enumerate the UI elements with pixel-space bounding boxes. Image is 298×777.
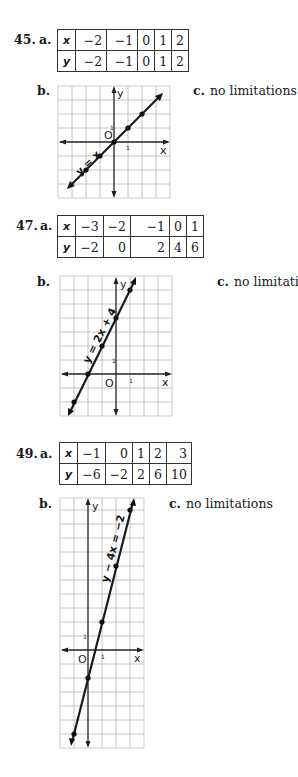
x-axis-label: x [134,652,141,665]
data-point [85,675,90,680]
y-axis-label: y [92,500,99,513]
tick-label-x: 1 [101,653,105,660]
y-axis-arrow-up-icon [86,498,91,505]
data-point [71,731,76,736]
data-point [127,507,132,512]
tick-label-y: 1 [83,633,87,640]
x-axis-arrow-left-icon [61,648,68,653]
origin-label: O [78,653,87,666]
graph-49: y x O 1 1 y − 4x = −2 [0,0,298,777]
y-axis-arrow-down-icon [86,741,91,748]
line-arrow-icon [130,498,136,506]
data-point [99,619,104,624]
